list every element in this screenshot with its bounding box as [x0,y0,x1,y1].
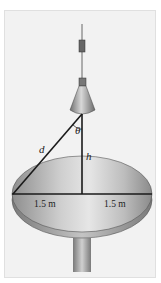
d-label: d [39,143,45,155]
h-label: h [86,150,92,162]
antenna-mast [79,24,86,86]
theta-label: θ [75,124,81,136]
receiver-cone [70,86,95,114]
right-radius-label: 1.5 m [104,199,126,209]
antenna-dish-diagram: θ d h 1.5 m 1.5 m [0,0,161,283]
support-post [73,238,91,272]
left-radius-label: 1.5 m [34,199,56,209]
